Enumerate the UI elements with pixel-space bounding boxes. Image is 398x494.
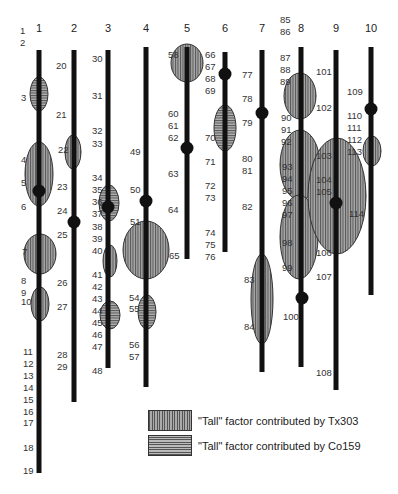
marker-label: 110 — [347, 111, 362, 121]
marker-label: 98 — [282, 238, 293, 248]
marker-label: 74 — [205, 228, 216, 238]
marker-label: 58 — [168, 50, 179, 60]
marker-label: 76 — [205, 252, 216, 262]
chromosome-bar-9 — [334, 50, 339, 390]
marker-label: 96 — [282, 198, 293, 208]
horizontal-stripes-swatch-icon — [148, 435, 192, 456]
marker-label: 4 — [21, 155, 26, 165]
marker-label: 13 — [23, 371, 34, 381]
centromere-dot-icon — [181, 142, 194, 155]
marker-label: 103 — [316, 151, 332, 161]
marker-label: 21 — [56, 110, 67, 120]
marker-label: 87 — [280, 53, 291, 63]
marker-label: 85 — [280, 15, 291, 25]
centromere-dot-icon — [256, 107, 269, 120]
marker-label: 102 — [316, 103, 332, 113]
marker-label: 113 — [347, 147, 362, 157]
chromosome-label-9: 9 — [333, 22, 339, 34]
centromere-dot-icon — [140, 195, 153, 208]
chromosome-label-3: 3 — [105, 22, 111, 34]
chromosome-bar-8 — [299, 47, 304, 367]
marker-label: 51 — [130, 217, 141, 227]
marker-label: 37 — [92, 209, 103, 219]
marker-label: 33 — [92, 139, 103, 149]
chromosome-label-6: 6 — [222, 22, 228, 34]
legend-item-tx303: "Tall" factor contributed by Tx303 — [148, 410, 358, 431]
marker-label: 10 — [21, 297, 32, 307]
marker-label: 48 — [92, 366, 103, 376]
centromere-dot-icon — [330, 197, 343, 210]
marker-label: 67 — [205, 62, 216, 72]
marker-label: 92 — [281, 137, 292, 147]
chromosome-label-1: 1 — [36, 22, 42, 34]
marker-label: 44 — [92, 306, 103, 316]
marker-label: 68 — [205, 74, 216, 84]
marker-label: 77 — [242, 70, 253, 80]
marker-label: 100 — [283, 312, 299, 322]
marker-label: 32 — [92, 126, 103, 136]
marker-label: 57 — [129, 352, 140, 362]
marker-label: 106 — [316, 248, 332, 258]
chromosome-label-10: 10 — [365, 22, 377, 34]
centromere-dot-icon — [68, 216, 81, 229]
marker-label: 114 — [349, 209, 364, 219]
marker-label: 60 — [168, 109, 179, 119]
marker-label: 62 — [168, 133, 179, 143]
marker-label: 22 — [58, 145, 69, 155]
marker-label: 79 — [242, 118, 253, 128]
marker-label: 41 — [92, 270, 103, 280]
marker-label: 104 — [316, 175, 332, 185]
marker-label: 105 — [316, 187, 332, 197]
marker-label: 45 — [92, 318, 103, 328]
marker-label: 40 — [92, 246, 103, 256]
marker-label: 109 — [347, 87, 363, 97]
marker-label: 90 — [281, 113, 292, 123]
marker-label: 15 — [23, 395, 34, 405]
centromere-dot-icon — [219, 68, 232, 81]
marker-label: 14 — [23, 383, 34, 393]
marker-label: 63 — [168, 169, 179, 179]
marker-label: 20 — [56, 61, 67, 71]
marker-label: 78 — [242, 94, 253, 104]
chromosome-bar-7 — [260, 50, 265, 372]
marker-label: 5 — [21, 178, 26, 188]
marker-label: 39 — [92, 234, 103, 244]
marker-label: 11 — [23, 347, 33, 357]
marker-label: 70 — [205, 133, 216, 143]
marker-label: 19 — [23, 466, 34, 476]
marker-label: 27 — [57, 302, 68, 312]
marker-label: 35 — [92, 185, 103, 195]
marker-label: 28 — [57, 350, 68, 360]
marker-label: 36 — [92, 197, 103, 207]
chromosome-bar-6 — [223, 52, 228, 252]
marker-label: 99 — [282, 263, 293, 273]
marker-label: 95 — [282, 186, 293, 196]
marker-label: 1 — [20, 26, 25, 36]
centromere-dot-icon — [102, 201, 115, 214]
marker-label: 8 — [21, 276, 26, 286]
marker-label: 47 — [92, 342, 103, 352]
marker-label: 46 — [92, 330, 103, 340]
marker-label: 18 — [23, 443, 34, 453]
marker-label: 49 — [130, 147, 141, 157]
marker-label: 3 — [21, 93, 26, 103]
chromosome-label-2: 2 — [71, 22, 77, 34]
marker-label: 71 — [205, 157, 216, 167]
marker-label: 64 — [168, 205, 179, 215]
chromosome-label-5: 5 — [184, 22, 190, 34]
marker-label: 107 — [316, 272, 332, 282]
centromere-dot-icon — [365, 103, 378, 116]
marker-label: 6 — [21, 202, 26, 212]
marker-label: 23 — [57, 182, 68, 192]
marker-label: 82 — [242, 202, 253, 212]
marker-label: 34 — [92, 173, 103, 183]
marker-label: 84 — [244, 322, 255, 332]
centromere-dot-icon — [33, 185, 46, 198]
marker-label: 61 — [168, 121, 179, 131]
marker-label: 56 — [129, 340, 140, 350]
marker-label: 24 — [57, 206, 68, 216]
legend-item-co159: "Tall" factor contributed by Co159 — [148, 435, 361, 456]
marker-label: 75 — [205, 240, 216, 250]
marker-label: 89 — [280, 77, 291, 87]
legend-label-tx303: "Tall" factor contributed by Tx303 — [198, 415, 358, 427]
